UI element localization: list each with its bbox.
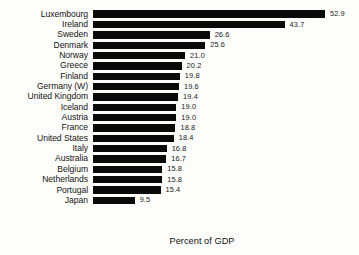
x-axis-title-container: Percent of GDP	[93, 236, 359, 246]
bar-value-label: 18.4	[179, 134, 194, 142]
bar	[93, 155, 166, 162]
bar-track: 19.6	[93, 81, 359, 91]
bar-row: Austria19.0	[0, 112, 359, 122]
bar-track: 19.4	[93, 92, 359, 102]
bar-category-label: Ireland	[0, 20, 88, 29]
bar-row: Italy16.8	[0, 143, 359, 153]
bar-row: Norway21.0	[0, 50, 359, 60]
bar-track: 9.5	[93, 195, 359, 205]
bar	[93, 93, 178, 100]
bar-value-label: 15.4	[166, 186, 181, 194]
bar-track: 25.6	[93, 40, 359, 50]
bar-category-label: Belgium	[0, 165, 88, 174]
bar-track: 15.8	[93, 175, 359, 185]
bar-value-label: 15.8	[167, 165, 182, 173]
bar-track: 43.7	[93, 19, 359, 29]
bar	[93, 197, 135, 204]
bar	[93, 42, 205, 49]
bar-category-label: Netherlands	[0, 175, 88, 184]
bar-value-label: 19.4	[183, 93, 198, 101]
bar-chart: Luxembourg52.9Ireland43.7Sweden26.6Denma…	[0, 0, 359, 255]
bar-value-label: 20.2	[187, 62, 202, 70]
bar-value-label: 19.0	[181, 114, 196, 122]
bar-track: 21.0	[93, 50, 359, 60]
bar-row: France18.8	[0, 123, 359, 133]
bar-value-label: 16.8	[172, 145, 187, 153]
bar-category-label: Iceland	[0, 103, 88, 112]
bar-value-label: 16.7	[171, 155, 186, 163]
bar-track: 52.9	[93, 9, 359, 19]
bar-track: 19.0	[93, 102, 359, 112]
bar-category-label: France	[0, 123, 88, 132]
bar-value-label: 19.6	[184, 83, 199, 91]
bar-category-label: United States	[0, 134, 88, 143]
bar-track: 15.8	[93, 164, 359, 174]
bar-row: Sweden26.6	[0, 30, 359, 40]
bar-track: 19.0	[93, 112, 359, 122]
bar-row: Japan9.5	[0, 195, 359, 205]
bar	[93, 73, 180, 80]
bar-row: Iceland19.0	[0, 102, 359, 112]
bar-category-label: Denmark	[0, 41, 88, 50]
bar-category-label: Portugal	[0, 186, 88, 195]
bar	[93, 145, 167, 152]
bar-track: 15.4	[93, 185, 359, 195]
bar-row: United States18.4	[0, 133, 359, 143]
bar-row: Germany (W)19.6	[0, 81, 359, 91]
bar	[93, 114, 176, 121]
bar-value-label: 9.5	[140, 196, 151, 204]
bar-category-label: Finland	[0, 72, 88, 81]
bar-value-label: 18.8	[180, 124, 195, 132]
bar	[93, 124, 175, 131]
bar-row: Australia16.7	[0, 154, 359, 164]
bar-value-label: 19.0	[181, 103, 196, 111]
bar-category-label: Greece	[0, 61, 88, 70]
bar-value-label: 21.0	[190, 52, 205, 60]
bar-category-label: Australia	[0, 154, 88, 163]
chart-plot-area: Luxembourg52.9Ireland43.7Sweden26.6Denma…	[0, 9, 359, 206]
bar-category-label: Luxembourg	[0, 10, 88, 19]
bar-row: Netherlands15.8	[0, 175, 359, 185]
bar	[93, 10, 325, 17]
bar	[93, 52, 185, 59]
bar-category-label: Germany (W)	[0, 82, 88, 91]
bar-row: Finland19.8	[0, 71, 359, 81]
bar	[93, 166, 162, 173]
bar-row: Greece20.2	[0, 61, 359, 71]
bar-value-label: 19.8	[185, 72, 200, 80]
bar-value-label: 52.9	[330, 10, 345, 18]
bar-category-label: Italy	[0, 144, 88, 153]
bar-track: 26.6	[93, 30, 359, 40]
x-axis-title: Percent of GDP	[169, 236, 234, 246]
bar	[93, 186, 161, 193]
bar-category-label: Norway	[0, 51, 88, 60]
bar-category-label: Austria	[0, 113, 88, 122]
bar-value-label: 25.6	[210, 41, 225, 49]
bar-row: United Kingdom19.4	[0, 92, 359, 102]
bar-row: Denmark25.6	[0, 40, 359, 50]
bar-category-label: United Kingdom	[0, 92, 88, 101]
bar-row: Ireland43.7	[0, 19, 359, 29]
bar	[93, 104, 176, 111]
bar	[93, 135, 174, 142]
bar-value-label: 43.7	[290, 21, 305, 29]
bar-row: Portugal15.4	[0, 185, 359, 195]
bar-track: 16.8	[93, 143, 359, 153]
bar	[93, 31, 210, 38]
bar	[93, 62, 182, 69]
bar-track: 16.7	[93, 154, 359, 164]
bar-row: Belgium15.8	[0, 164, 359, 174]
bar-track: 20.2	[93, 61, 359, 71]
bar-track: 18.4	[93, 133, 359, 143]
bar	[93, 83, 179, 90]
bar-track: 19.8	[93, 71, 359, 81]
bar-track: 18.8	[93, 123, 359, 133]
bar-row: Luxembourg52.9	[0, 9, 359, 19]
bar-value-label: 15.8	[167, 176, 182, 184]
bar-category-label: Japan	[0, 196, 88, 205]
bar-category-label: Sweden	[0, 30, 88, 39]
bar	[93, 176, 162, 183]
bar	[93, 21, 285, 28]
bar-value-label: 26.6	[215, 31, 230, 39]
